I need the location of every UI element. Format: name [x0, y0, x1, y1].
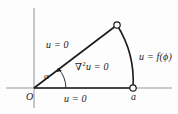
- boundary-arc-edge: [117, 25, 133, 88]
- laplace-equation-label: ∇2u = 0: [75, 62, 109, 72]
- laplace-equation-rest: u = 0: [86, 61, 109, 72]
- radius-point-label: a: [131, 92, 136, 102]
- boundary-condition-left-label: u = 0: [46, 40, 69, 50]
- angle-alpha-label: α: [44, 72, 49, 81]
- boundary-condition-arc-label: u = f(ϕ): [139, 52, 172, 62]
- arc-top-vertex-marker: [114, 22, 120, 28]
- sector-diagram: u = 0 u = 0 u = f(ϕ) ∇2u = 0 O a α: [0, 0, 178, 114]
- origin-label: O: [26, 92, 33, 102]
- boundary-condition-bottom-label: u = 0: [64, 94, 87, 104]
